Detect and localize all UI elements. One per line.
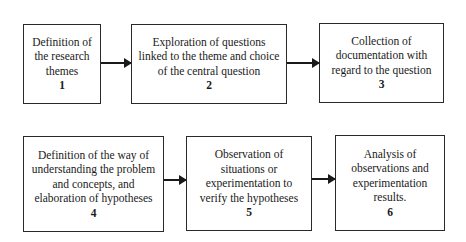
- step-6-text: Analysis of observations and experimenta…: [351, 147, 429, 205]
- step-6-box: Analysis of observations and experimenta…: [335, 135, 445, 231]
- step-1-number: 1: [59, 78, 65, 93]
- step-5-number: 5: [246, 205, 252, 220]
- step-1-text: Definition of the research themes: [32, 35, 92, 79]
- step-3-text: Collection of documentation with regard …: [332, 34, 432, 78]
- step-1-box: Definition of the research themes 1: [23, 24, 101, 104]
- arrow-5-to-6: [312, 178, 335, 180]
- step-4-number: 4: [91, 206, 97, 221]
- step-5-text: Observation of situations or experimenta…: [200, 147, 298, 205]
- step-4-text: Definition of the way of understanding t…: [32, 148, 155, 206]
- step-2-number: 2: [206, 78, 212, 93]
- arrow-2-to-3: [287, 62, 319, 64]
- step-3-box: Collection of documentation with regard …: [319, 23, 444, 103]
- step-2-box: Exploration of questions linked to the t…: [131, 24, 287, 104]
- arrow-1-to-2: [101, 62, 131, 64]
- step-5-box: Observation of situations or experimenta…: [186, 136, 312, 231]
- step-6-number: 6: [387, 205, 393, 220]
- step-4-box: Definition of the way of understanding t…: [23, 136, 164, 232]
- arrow-4-to-5: [164, 179, 186, 181]
- step-3-number: 3: [379, 77, 385, 92]
- step-2-text: Exploration of questions linked to the t…: [139, 35, 280, 79]
